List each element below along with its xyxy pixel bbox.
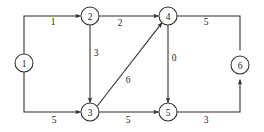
node-3-label: 3 [88, 108, 93, 118]
edge-3-to-4-weight: 6 [126, 75, 131, 85]
edge-1-to-3-weight: 5 [52, 115, 57, 125]
edge-2-to-4: 2 [99, 16, 158, 28]
edge-4-to-5-weight: 0 [172, 53, 177, 63]
edge-5-to-6-weight: 3 [204, 115, 209, 125]
edge-3-to-5: 5 [99, 112, 158, 125]
edge-4-to-6: 5 [177, 16, 240, 50]
node-6-label: 6 [238, 61, 243, 71]
edge-2-to-3-weight: 3 [94, 48, 99, 58]
node-6[interactable]: 6 [231, 56, 249, 74]
edge-3-to-4-line [98, 23, 163, 106]
node-2-label: 2 [88, 12, 93, 22]
edge-5-to-6: 3 [177, 80, 240, 125]
edge-1-to-2: 1 [24, 16, 80, 54]
node-2[interactable]: 2 [81, 7, 99, 25]
edge-3-to-5-weight: 5 [126, 115, 131, 125]
edge-1-to-3: 5 [24, 72, 80, 125]
edge-3-to-4: 6 [98, 23, 163, 106]
edge-4-to-6-weight: 5 [204, 17, 209, 27]
node-3[interactable]: 3 [81, 103, 99, 121]
edge-1-to-2-weight: 1 [51, 17, 56, 27]
node-4[interactable]: 4 [159, 7, 177, 25]
edge-1-to-3-line [24, 72, 80, 112]
node-5[interactable]: 5 [159, 103, 177, 121]
node-5-label: 5 [166, 108, 171, 118]
node-1-label: 1 [22, 59, 27, 69]
edge-2-to-4-weight: 2 [118, 18, 123, 28]
node-4-label: 4 [166, 12, 171, 22]
weighted-directed-graph-figure: 1 2 5 3 6 0 5 [0, 0, 264, 132]
edge-2-to-3: 3 [90, 25, 99, 102]
node-1[interactable]: 1 [15, 54, 33, 72]
edge-5-to-6-line [177, 80, 240, 112]
graph-canvas: 1 2 5 3 6 0 5 [0, 0, 264, 132]
edge-4-to-6-line [177, 16, 240, 50]
edge-4-to-5: 0 [168, 25, 177, 102]
